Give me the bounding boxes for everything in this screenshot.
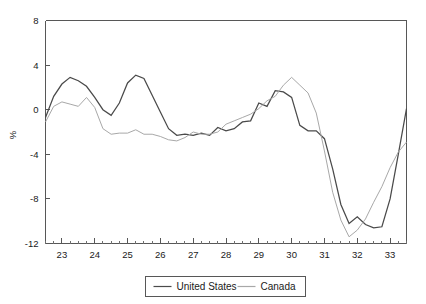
x-tick-label: 32: [352, 249, 363, 260]
y-tick-label: 4: [33, 60, 38, 71]
plot-frame: [46, 21, 407, 244]
x-axis-tick-labels: 2324252627282930313233: [57, 249, 396, 260]
svg-text:%: %: [7, 130, 18, 139]
y-tick-label: -4: [30, 149, 38, 160]
series-line-canada: [46, 77, 407, 236]
y-tick-label: 8: [33, 15, 38, 26]
x-tick-label: 25: [122, 249, 133, 260]
x-tick-label: 30: [286, 249, 297, 260]
y-axis-tick-labels: 840-4-8-12: [25, 15, 39, 249]
x-tick-label: 27: [188, 249, 199, 260]
x-tick-label: 24: [89, 249, 100, 260]
chart-container: 840-4-8-12 2324252627282930313233 % Unit…: [0, 0, 426, 304]
y-tick-label: -8: [30, 193, 38, 204]
x-tick-label: 23: [57, 249, 68, 260]
legend-item-label: Canada: [261, 281, 296, 292]
y-tick-label: 0: [33, 104, 38, 115]
x-tick-label: 29: [254, 249, 265, 260]
y-axis-ticks: [46, 21, 50, 244]
x-tick-label: 31: [319, 249, 330, 260]
series-lines: [46, 75, 407, 237]
chart-legend: United StatesCanada: [146, 277, 306, 297]
x-tick-label: 33: [385, 249, 396, 260]
x-tick-label: 26: [155, 249, 166, 260]
line-chart: 840-4-8-12 2324252627282930313233 % Unit…: [0, 0, 426, 304]
y-tick-label: -12: [25, 238, 39, 249]
x-tick-label: 28: [221, 249, 232, 260]
series-line-united-states: [46, 75, 407, 228]
legend-item-label: United States: [177, 281, 237, 292]
y-axis-title: %: [7, 130, 18, 139]
